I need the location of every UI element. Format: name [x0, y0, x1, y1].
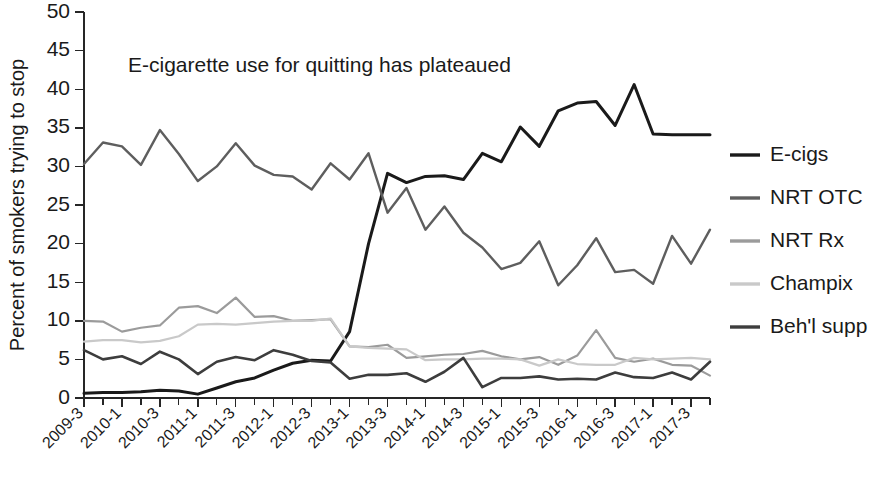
x-tick-label: 2013-1: [304, 404, 351, 451]
series-line-e-cigs: [84, 85, 710, 395]
y-tick-label: 15: [47, 269, 70, 292]
y-tick-label: 50: [47, 0, 70, 22]
x-tick-label: 2012-1: [229, 404, 276, 451]
legend-label: Champix: [770, 271, 853, 294]
y-tick-label: 5: [58, 346, 70, 369]
legend-item-beh-l-supp[interactable]: Beh'l supp: [730, 314, 867, 337]
legend-item-nrt-rx[interactable]: NRT Rx: [730, 228, 844, 251]
y-tick-label: 20: [47, 230, 70, 253]
legend-label: Beh'l supp: [770, 314, 867, 337]
x-tick-label: 2012-3: [267, 404, 314, 451]
x-tick-label: 2017-3: [646, 404, 693, 451]
chart-container: 05101520253035404550 2009-32010-12010-32…: [0, 0, 873, 483]
y-tick-label: 25: [47, 192, 70, 215]
legend-item-champix[interactable]: Champix: [730, 271, 853, 294]
x-tick-label: 2014-3: [418, 404, 465, 451]
x-tick-label: 2010-3: [115, 404, 162, 451]
legend-label: NRT Rx: [770, 228, 844, 251]
chart-annotation: E-cigarette use for quitting has plateau…: [128, 53, 511, 76]
y-axis-title: Percent of smokers trying to stop: [6, 59, 28, 351]
y-tick-label: 10: [47, 307, 70, 330]
series-group: [84, 85, 710, 395]
legend-item-nrt-otc[interactable]: NRT OTC: [730, 185, 863, 208]
x-tick-label: 2014-1: [380, 404, 427, 451]
series-line-beh-l-supp: [84, 350, 710, 387]
x-tick-label: 2015-1: [456, 404, 503, 451]
y-tick-labels: 05101520253035404550: [47, 0, 70, 408]
y-tick-label: 45: [47, 37, 70, 60]
legend: E-cigsNRT OTCNRT RxChampixBeh'l supp: [730, 142, 867, 337]
legend-label: E-cigs: [770, 142, 828, 165]
x-tick-labels: 2009-32010-12010-32011-12011-32012-12012…: [39, 404, 693, 451]
y-tick-label: 30: [47, 153, 70, 176]
line-chart: 05101520253035404550 2009-32010-12010-32…: [0, 0, 873, 483]
annotation-group: E-cigarette use for quitting has plateau…: [128, 53, 511, 76]
y-tick-label: 0: [58, 385, 70, 408]
x-tick-label: 2016-1: [532, 404, 579, 451]
x-tick-label: 2013-3: [342, 404, 389, 451]
legend-item-e-cigs[interactable]: E-cigs: [730, 142, 828, 165]
x-tick-label: 2016-3: [570, 404, 617, 451]
y-tick-label: 40: [47, 76, 70, 99]
x-tick-label: 2017-1: [608, 404, 655, 451]
x-tick-label: 2015-3: [494, 404, 541, 451]
x-tick-label: 2010-1: [77, 404, 124, 451]
x-tick-label: 2011-3: [191, 404, 237, 450]
legend-label: NRT OTC: [770, 185, 863, 208]
series-line-nrt-otc: [84, 130, 710, 285]
y-axis-title-group: Percent of smokers trying to stop: [6, 59, 28, 351]
x-tick-label: 2011-1: [154, 404, 200, 450]
y-tick-label: 35: [47, 114, 70, 137]
x-tick-label: 2009-3: [39, 404, 86, 451]
